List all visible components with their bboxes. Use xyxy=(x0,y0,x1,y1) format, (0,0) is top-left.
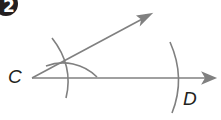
point-label-c: C xyxy=(8,66,22,88)
angled-ray xyxy=(32,17,146,78)
point-label-d: D xyxy=(183,88,197,110)
arc-intersect xyxy=(52,38,68,98)
arrowhead-up-icon xyxy=(138,14,151,24)
arc-from-c xyxy=(46,63,97,77)
